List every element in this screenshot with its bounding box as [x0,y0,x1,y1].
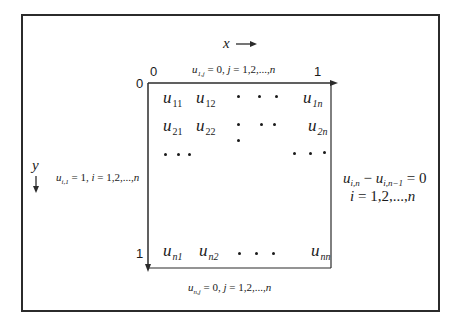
ellipsis-dot [238,252,241,255]
grid-cell-unn: unn [311,241,331,262]
top-boundary-condition: u1,j = 0, j = 1,2,...,n [192,63,275,78]
ellipsis-dot [273,123,276,126]
y-direction-arrow-icon [33,186,39,193]
grid-cell-u1n: u1n [303,88,323,109]
grid-cell-u21: u21 [163,116,183,137]
x-tick-1: 1 [314,64,321,79]
grid-cell-u2n: u2n [308,116,328,137]
grid-cell-u11: u11 [163,88,182,109]
x-axis-label: x [223,35,230,52]
ellipsis-dot [237,123,240,126]
grid-cell-u12: u12 [196,88,216,109]
left-boundary-condition: ui,1 = 1, i = 1,2,...,n [56,171,139,186]
ellipsis-dot [275,95,278,98]
ellipsis-dot [272,252,275,255]
right-boundary-condition-line2: i = 1,2,...,n [350,188,415,205]
ellipsis-dot [164,153,167,156]
x-direction-arrow-icon [250,41,257,47]
ellipsis-dot [237,139,240,142]
ellipsis-dot [260,123,263,126]
y-axis-label: y [32,157,39,174]
grid-cell-u22: u22 [196,116,216,137]
bottom-boundary-condition: un,j = 0, j = 1,2,...,n [188,281,271,296]
ellipsis-dot [309,152,312,155]
y-tick-0: 0 [136,76,143,91]
ellipsis-dot [293,152,296,155]
grid-cell-un2: un2 [199,241,219,262]
ellipsis-dot [188,153,191,156]
ellipsis-dot [237,95,240,98]
ellipsis-dot [258,95,261,98]
ellipsis-dot [323,151,326,154]
x-tick-0: 0 [150,64,157,79]
ellipsis-dot [255,252,258,255]
grid-cell-un1: un1 [163,241,183,262]
right-boundary-condition-line1: ui,n − ui,n−1 = 0 [343,170,427,188]
y-tick-1: 1 [136,246,143,261]
ellipsis-dot [177,153,180,156]
